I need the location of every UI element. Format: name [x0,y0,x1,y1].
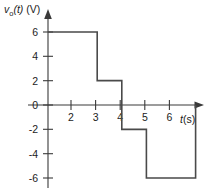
y-axis-title: vo(t)(V) [4,3,40,18]
voltage-waveform-chart: 6 4 2 0 -2 -4 -6 2 3 4 5 6 vo(t)(V) t(s) [0,0,212,192]
y-axis-arrow-icon [44,9,52,19]
x-axis-title: t(s) [180,113,195,125]
y-tick-label-0: 0 [32,99,38,111]
x-tick-label-5: 5 [142,111,148,123]
y-tick-label-2: 2 [32,75,38,87]
y-tick-label-neg4: -4 [29,148,38,160]
x-tick-labels: 2 3 4 5 6 [68,111,172,123]
x-axis [28,101,204,108]
y-tick-label-neg2: -2 [29,123,38,135]
x-tick-label-3: 3 [93,111,99,123]
chart-canvas: 6 4 2 0 -2 -4 -6 2 3 4 5 6 vo(t)(V) t(s) [0,0,212,192]
y-axis-title-argument: (t) [13,3,23,15]
y-tick-label-6: 6 [32,26,38,38]
x-tick-label-2: 2 [68,111,74,123]
y-axis-title-unit: (V) [26,3,40,15]
y-axis [44,9,52,188]
y-tick-label-4: 4 [32,50,38,62]
x-axis-title-unit: (s) [183,113,195,125]
y-tick-label-neg6: -6 [29,172,38,184]
x-tick-label-6: 6 [166,111,172,123]
